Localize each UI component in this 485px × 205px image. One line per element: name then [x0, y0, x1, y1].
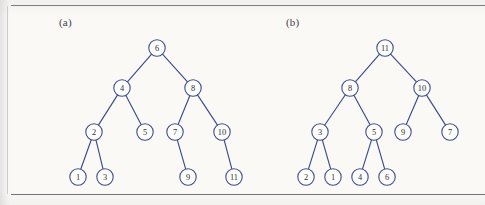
tree-node-label: 1 [76, 173, 80, 182]
tree-edge [355, 54, 379, 82]
tree-node: 1 [325, 169, 341, 185]
tree-node-label: 6 [385, 173, 389, 182]
tree-node: 2 [86, 124, 102, 140]
tree-node: 10 [214, 124, 230, 140]
tree-node: 4 [114, 80, 130, 96]
tree-node-label: 11 [230, 173, 238, 182]
tree-node: 11 [377, 40, 393, 56]
tree-edge [98, 95, 117, 125]
tree-node: 10 [414, 80, 430, 96]
left-page-edge [7, 6, 8, 194]
bottom-rule-line [11, 194, 485, 195]
tree-edge [178, 96, 190, 125]
tree-node: 6 [149, 40, 165, 56]
tree-edge [362, 140, 371, 169]
tree-node: 6 [379, 169, 395, 185]
tree-edge [376, 140, 384, 169]
tree-node: 5 [366, 124, 382, 140]
tree-node: 9 [180, 169, 196, 185]
tree-node: 7 [442, 124, 458, 140]
tree-edge [162, 54, 187, 82]
tree-edge [198, 95, 218, 125]
tree-node: 3 [312, 124, 328, 140]
figure-container: (a) (b) 64825710139111181035972146 [0, 0, 485, 205]
tree-node-label: 9 [401, 128, 405, 137]
tree-edge [96, 140, 103, 169]
panel-label-a: (a) [59, 16, 72, 28]
binary-tree-canvas: 64825710139111181035972146 [0, 0, 485, 205]
tree-node: 1 [70, 169, 86, 185]
tree-node: 8 [185, 80, 201, 96]
tree-edge [126, 95, 141, 124]
top-rule-line [11, 5, 485, 6]
tree-edge [224, 140, 232, 169]
tree-edge [177, 140, 185, 169]
tree-node: 11 [226, 169, 242, 185]
tree-node-label: 5 [143, 128, 147, 137]
tree-edge [406, 96, 419, 125]
tree-edge [322, 140, 330, 169]
tree-node: 3 [97, 169, 113, 185]
tree-edge [354, 95, 370, 125]
tree-edge [325, 95, 346, 125]
tree-node-label: 5 [372, 128, 376, 137]
tree-node: 4 [352, 169, 368, 185]
tree-edge [127, 54, 151, 82]
tree-node: 2 [298, 169, 314, 185]
tree-node-label: 2 [304, 173, 308, 182]
tree-node: 9 [395, 124, 411, 140]
panel-label-b: (b) [286, 16, 299, 28]
tree-node-label: 10 [418, 84, 426, 93]
tree-node-label: 7 [173, 128, 177, 137]
tree-edges-layer [81, 54, 446, 169]
tree-node-label: 8 [348, 84, 352, 93]
tree-edge [391, 54, 417, 82]
tree-node-label: 7 [448, 128, 452, 137]
tree-node-label: 2 [92, 128, 96, 137]
tree-node-label: 1 [331, 173, 335, 182]
tree-nodes-layer: 64825710139111181035972146 [70, 40, 458, 185]
tree-node-label: 10 [218, 128, 226, 137]
tree-node: 7 [167, 124, 183, 140]
tree-node-label: 11 [381, 44, 389, 53]
tree-node-label: 3 [318, 128, 322, 137]
tree-node-label: 9 [186, 173, 190, 182]
tree-node-label: 8 [191, 84, 195, 93]
tree-node: 8 [342, 80, 358, 96]
tree-node-label: 3 [103, 173, 107, 182]
tree-edge [426, 95, 445, 125]
tree-node-label: 6 [155, 44, 159, 53]
tree-edge [308, 140, 317, 169]
tree-node: 5 [137, 124, 153, 140]
tree-edge [81, 140, 92, 170]
